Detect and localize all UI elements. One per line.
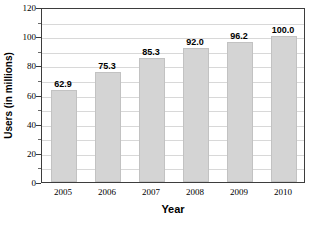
x-tick-label: 2005 <box>54 187 72 197</box>
y-tick-label: 20 <box>27 149 36 159</box>
x-tick-label: 2009 <box>230 187 248 197</box>
y-tick-label: 40 <box>27 120 36 130</box>
y-tick-label: 60 <box>27 91 36 101</box>
x-tick-label: 2007 <box>142 187 160 197</box>
bar <box>51 90 77 182</box>
bar <box>139 58 165 182</box>
y-tick-label: 80 <box>27 61 36 71</box>
y-tick-label: 120 <box>23 3 37 13</box>
bar-chart: Users (in millions) 020406080100120 62.9… <box>0 0 319 227</box>
x-axis-title: Year <box>41 203 305 215</box>
y-axis-title: Users (in millions) <box>0 0 16 190</box>
x-axis-tick-labels: 200520062007200820092010 <box>41 187 305 201</box>
bar <box>227 42 253 182</box>
y-tick-label: 100 <box>23 32 37 42</box>
x-tick-label: 2008 <box>186 187 204 197</box>
x-tick-label: 2010 <box>274 187 292 197</box>
bar <box>95 72 121 182</box>
plot-area <box>41 8 305 183</box>
bar <box>183 48 209 182</box>
x-tick-label: 2006 <box>98 187 116 197</box>
y-tick-mark-major <box>36 183 41 184</box>
bar <box>271 36 297 182</box>
bars-group <box>42 9 304 182</box>
y-axis-title-label: Users (in millions) <box>3 52 14 139</box>
